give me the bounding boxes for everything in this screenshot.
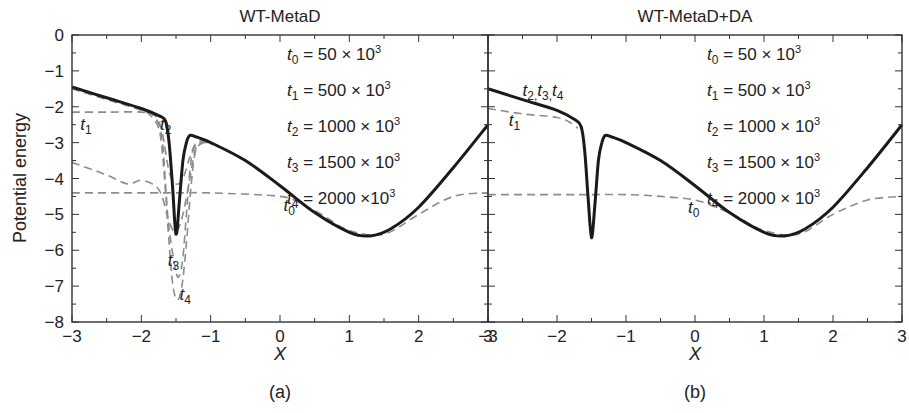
panel-a-legend: t0 = 50 × 103t1 = 500 × 103t2 = 1000 × 1… [287, 43, 400, 211]
x-tick-label: 2 [828, 327, 837, 346]
panel-a-frame [72, 35, 488, 322]
legend-entry-t4: t4 = 2000 ×103 [287, 187, 395, 211]
curve-label-t1: t1 [509, 111, 521, 133]
curve-label: t2,t3,t4 [523, 81, 564, 103]
panel-a-annotations: t0t1t2t3t4 [80, 115, 295, 307]
series-t3 [72, 89, 211, 278]
panel-a-label: (a) [269, 382, 291, 402]
x-tick-label: 1 [345, 327, 354, 346]
y-tick-label: −6 [45, 241, 64, 260]
panel-a-title: WT-MetaD [239, 7, 320, 26]
legend-entry-t3: t3 = 1500 × 103 [707, 151, 820, 175]
x-tick-label: 1 [759, 327, 768, 346]
series-t4 [72, 88, 211, 300]
legend-entry-t0: t0 = 50 × 103 [707, 43, 801, 67]
panel-b-xlabel: X [688, 344, 702, 364]
legend-entry-t1: t1 = 500 × 103 [707, 79, 811, 103]
panel-b: WT-MetaD+DA −3−2−10123 t0 = 50 × 103t1 =… [478, 7, 906, 402]
series-true [72, 87, 488, 236]
legend-entry-t1: t1 = 500 × 103 [287, 79, 391, 103]
panel-a-curves [72, 87, 488, 300]
legend-entry-t4: t4 = 2000 × 103 [707, 187, 820, 211]
panel-b-annotations: t2,t3,t4t1t0 [509, 81, 700, 220]
y-tick-label: −1 [45, 62, 64, 81]
curve-label-t4: t4 [179, 285, 191, 307]
curve-label-t2: t2 [160, 115, 172, 137]
panel-a-ticks: −3−2−101230−1−2−3−4−5−6−7−8 [45, 26, 493, 346]
figure-canvas: WT-MetaD −3−2−101230−1−2−3−4−5−6−7−8 t0 … [0, 0, 909, 413]
x-tick-label: −1 [616, 327, 635, 346]
x-tick-label: −3 [62, 327, 81, 346]
legend-entry-t2: t2 = 1000 × 103 [287, 115, 400, 139]
x-tick-label: 3 [897, 327, 906, 346]
panel-b-title: WT-MetaD+DA [638, 7, 753, 26]
y-tick-label: −4 [45, 170, 64, 189]
y-tick-label: −2 [45, 98, 64, 117]
panel-a-xlabel: X [273, 344, 287, 364]
panel-a: WT-MetaD −3−2−101230−1−2−3−4−5−6−7−8 t0 … [10, 7, 493, 402]
y-tick-label: −7 [45, 277, 64, 296]
series-t1 [488, 109, 578, 129]
legend-entry-t0: t0 = 50 × 103 [287, 43, 381, 67]
y-tick-label: −8 [45, 313, 64, 332]
panel-b-ticks: −3−2−10123 [478, 35, 906, 346]
y-tick-label: −5 [45, 205, 64, 224]
x-tick-label: −2 [547, 327, 566, 346]
legend-entry-t3: t3 = 1500 × 103 [287, 151, 400, 175]
x-tick-label: −3 [478, 327, 497, 346]
curve-label-t1: t1 [80, 115, 92, 137]
x-tick-label: 2 [414, 327, 423, 346]
x-tick-label: −1 [201, 327, 220, 346]
legend-entry-t2: t2 = 1000 × 103 [707, 115, 820, 139]
panel-b-label: (b) [684, 382, 706, 402]
x-tick-label: −2 [132, 327, 151, 346]
y-tick-label: 0 [55, 26, 64, 45]
panel-a-ylabel: Potential energy [10, 113, 30, 243]
panel-b-frame [488, 35, 902, 322]
panel-b-legend: t0 = 50 × 103t1 = 500 × 103t2 = 1000 × 1… [707, 43, 820, 211]
y-tick-label: −3 [45, 134, 64, 153]
